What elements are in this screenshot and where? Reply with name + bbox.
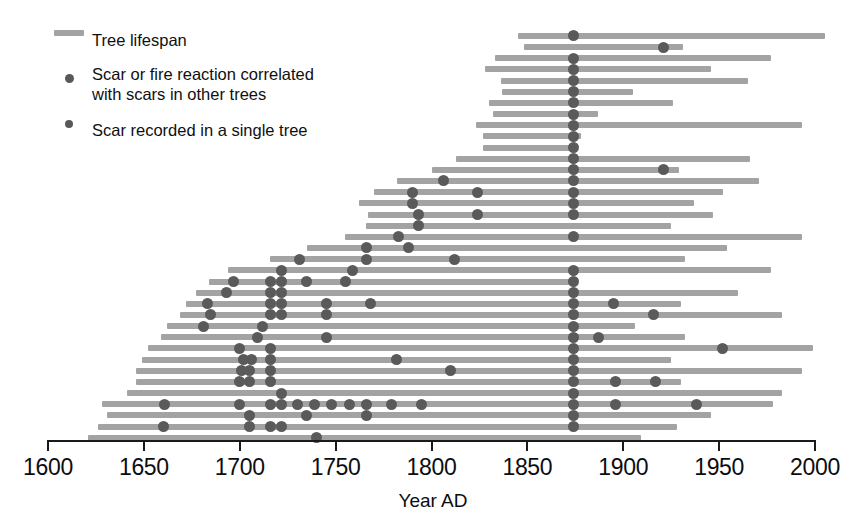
plot-area xyxy=(0,0,866,440)
fire-scar-dot xyxy=(568,131,579,142)
fire-scar-dot xyxy=(393,231,404,242)
fire-scar-dot xyxy=(265,376,276,387)
fire-scar-dot xyxy=(413,209,424,220)
fire-scar-dot xyxy=(472,187,483,198)
fire-scar-dot xyxy=(648,309,659,320)
fire-scar-dot xyxy=(159,399,170,410)
fire-scar-dot xyxy=(257,321,268,332)
tree-lifespan-bar xyxy=(518,33,825,39)
fire-scar-dot xyxy=(568,120,579,131)
fire-scar-dot xyxy=(276,298,287,309)
tree-lifespan-bar xyxy=(167,323,635,329)
fire-scar-dot xyxy=(228,276,239,287)
fire-scar-dot xyxy=(205,309,216,320)
fire-scar-dot xyxy=(568,97,579,108)
x-axis-tick-label-1900: 1900 xyxy=(598,454,648,481)
fire-scar-dot xyxy=(568,365,579,376)
tree-lifespan-bar xyxy=(493,111,598,117)
x-axis-tick-1900 xyxy=(622,440,624,451)
fire-scar-dot xyxy=(568,332,579,343)
fire-scar-dot xyxy=(568,265,579,276)
fire-scar-dot xyxy=(234,343,245,354)
fire-scar-dot xyxy=(691,399,702,410)
tree-lifespan-bar xyxy=(495,55,771,61)
fire-scar-dot xyxy=(568,209,579,220)
tree-lifespan-bar xyxy=(161,334,684,340)
tree-lifespan-bar xyxy=(476,122,802,128)
fire-scar-dot xyxy=(445,365,456,376)
fire-scar-dot xyxy=(568,86,579,97)
fire-scar-dot xyxy=(321,298,332,309)
x-axis: 160016501700175018001850190019502000 Yea… xyxy=(0,440,866,529)
fire-scar-dot xyxy=(416,399,427,410)
fire-scar-dot xyxy=(321,309,332,320)
fire-scar-dot xyxy=(265,421,276,432)
tree-lifespan-bar xyxy=(432,167,679,173)
x-axis-tick-label-1850: 1850 xyxy=(502,454,552,481)
fire-scar-dot xyxy=(386,399,397,410)
fire-scar-dot xyxy=(158,421,169,432)
fire-scar-dot xyxy=(326,399,337,410)
fire-scar-dot xyxy=(568,75,579,86)
fire-scar-dot xyxy=(344,399,355,410)
fire-scar-dot xyxy=(234,399,245,410)
tree-lifespan-bar xyxy=(98,424,677,430)
x-axis-tick-1950 xyxy=(718,440,720,451)
fire-scar-dot xyxy=(265,276,276,287)
fire-scar-dot xyxy=(276,287,287,298)
x-axis-title: Year AD xyxy=(0,490,866,512)
x-axis-tick-label-1800: 1800 xyxy=(407,454,457,481)
fire-scar-dot xyxy=(568,64,579,75)
fire-scar-dot xyxy=(321,332,332,343)
fire-scar-dot xyxy=(568,343,579,354)
fire-scar-dot xyxy=(361,254,372,265)
fire-scar-dot xyxy=(717,343,728,354)
x-axis-tick-label-1950: 1950 xyxy=(694,454,744,481)
fire-scar-dot xyxy=(568,421,579,432)
fire-scar-dot xyxy=(244,365,255,376)
fire-scar-dot xyxy=(301,276,312,287)
fire-scar-dot xyxy=(568,354,579,365)
fire-scar-dot xyxy=(361,410,372,421)
fire-scar-dot xyxy=(265,343,276,354)
fire-scar-dot xyxy=(294,254,305,265)
tree-lifespan-bar xyxy=(148,345,813,351)
fire-scar-dot xyxy=(198,321,209,332)
fire-scar-dot xyxy=(340,276,351,287)
fire-scar-dot xyxy=(438,175,449,186)
x-axis-tick-label-1750: 1750 xyxy=(311,454,361,481)
fire-scar-dot xyxy=(568,376,579,387)
fire-scar-dot xyxy=(391,354,402,365)
fire-scar-dot xyxy=(265,399,276,410)
fire-scar-dot xyxy=(265,354,276,365)
tree-lifespan-bar xyxy=(228,267,771,273)
fire-scar-dot xyxy=(658,164,669,175)
fire-scar-dot xyxy=(265,298,276,309)
fire-scar-dot xyxy=(244,410,255,421)
tree-lifespan-bar xyxy=(270,256,684,262)
fire-scar-dot xyxy=(568,53,579,64)
fire-scar-dot xyxy=(568,399,579,410)
fire-scar-dot xyxy=(347,265,358,276)
fire-scar-dot xyxy=(246,354,257,365)
tree-lifespan-bar xyxy=(489,100,673,106)
fire-scar-dot xyxy=(449,254,460,265)
fire-scar-dot xyxy=(292,399,303,410)
fire-scar-dot xyxy=(265,287,276,298)
fire-scar-dot xyxy=(361,242,372,253)
fire-scar-dot xyxy=(568,388,579,399)
fire-scar-dot xyxy=(276,265,287,276)
tree-lifespan-bar xyxy=(136,379,681,385)
fire-scar-dot xyxy=(244,421,255,432)
x-axis-tick-label-1600: 1600 xyxy=(23,454,73,481)
fire-scar-dot xyxy=(244,376,255,387)
fire-scar-dot xyxy=(568,410,579,421)
x-axis-tick-1850 xyxy=(526,440,528,451)
tree-lifespan-bar xyxy=(501,78,748,84)
fire-scar-dot xyxy=(568,309,579,320)
x-axis-tick-1650 xyxy=(143,440,145,451)
fire-scar-dot xyxy=(407,198,418,209)
tree-lifespan-bar xyxy=(374,189,723,195)
fire-scar-dot xyxy=(568,30,579,41)
tree-lifespan-bar xyxy=(127,390,783,396)
